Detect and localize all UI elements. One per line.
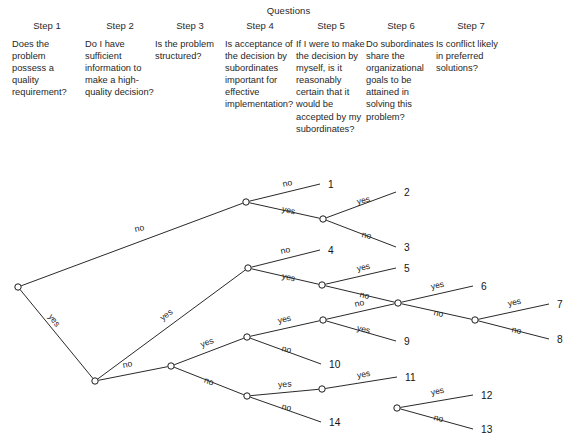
tree-edge-yes-n1-n2 (20, 290, 93, 379)
outcome-label-4: 4 (328, 245, 334, 256)
tree-node-n10[interactable] (320, 317, 326, 323)
tree-node-n7[interactable] (319, 282, 325, 288)
edge-label-yes: yes (278, 378, 292, 389)
edge-label-yes: yes (277, 313, 292, 326)
outcome-label-12: 12 (481, 390, 493, 401)
tree-edge-yes-n14-out12b (400, 395, 473, 407)
edge-label-yes: yes (158, 307, 175, 323)
tree-edge-no-n5-out3 (326, 220, 396, 247)
edge-label-yes: yes (356, 368, 371, 380)
edge-label-no: no (282, 177, 294, 189)
tree-edges (20, 184, 549, 429)
edge-label-yes: yes (46, 312, 62, 329)
node-circle-icon (320, 317, 326, 323)
outcome-label-3: 3 (404, 242, 410, 253)
edge-label-yes: yes (199, 335, 215, 349)
tree-node-n8[interactable] (395, 300, 401, 306)
tree-node-n3[interactable] (168, 363, 174, 369)
node-circle-icon (92, 378, 98, 384)
node-circle-icon (320, 216, 326, 222)
tree-edge-no-n1-n4 (21, 203, 243, 286)
outcome-label-6: 6 (481, 281, 487, 292)
edge-label-yes: yes (356, 323, 371, 336)
tree-edge-yes-n12-n13 (250, 389, 318, 395)
tree-node-n11[interactable] (244, 334, 250, 340)
outcome-label-9: 9 (404, 336, 410, 347)
outcome-label-14: 14 (329, 417, 341, 428)
node-circle-icon (395, 300, 401, 306)
edge-label-no: no (433, 412, 445, 424)
edge-label-yes: yes (356, 261, 371, 274)
outcome-label-2: 2 (404, 187, 410, 198)
edge-label-yes: yes (281, 271, 296, 284)
edge-label-no: no (511, 324, 523, 336)
tree-node-n13[interactable] (319, 386, 325, 392)
outcome-label-8: 8 (557, 334, 563, 345)
tree-node-n6[interactable] (245, 265, 251, 271)
decision-tree-graph: noyesyesnonoyesyesnonoyesyesnoyesnoyesno… (0, 0, 577, 441)
outcome-label-7: 7 (557, 299, 563, 310)
node-circle-icon (243, 199, 249, 205)
tree-edge-labels: noyesyesnonoyesyesnonoyesyesnoyesnoyesno… (46, 177, 522, 424)
tree-node-n4[interactable] (243, 199, 249, 205)
node-circle-icon (319, 386, 325, 392)
edge-label-no: no (134, 222, 146, 234)
edge-label-no: no (280, 244, 292, 256)
node-circle-icon (15, 284, 21, 290)
node-circle-icon (245, 265, 251, 271)
outcome-label-1: 1 (328, 179, 334, 190)
outcome-label-11: 11 (405, 372, 416, 383)
outcome-label-10: 10 (329, 359, 341, 370)
tree-node-n2[interactable] (92, 378, 98, 384)
tree-edge-no-n2-n3 (98, 367, 167, 381)
edge-label-no: no (122, 358, 134, 370)
node-circle-icon (244, 334, 250, 340)
tree-node-n9[interactable] (472, 317, 478, 323)
outcome-label-5: 5 (404, 263, 410, 274)
node-circle-icon (472, 317, 478, 323)
edge-label-yes: yes (356, 194, 371, 207)
edge-label-yes: yes (281, 204, 296, 217)
node-circle-icon (168, 363, 174, 369)
outcome-label-13: 13 (481, 424, 493, 435)
edge-label-yes: yes (430, 279, 445, 292)
edge-label-no: no (433, 307, 445, 319)
edge-label-yes: yes (430, 385, 445, 398)
node-circle-icon (319, 282, 325, 288)
tree-node-n5[interactable] (320, 216, 326, 222)
node-circle-icon (394, 405, 400, 411)
tree-node-n1[interactable] (15, 284, 21, 290)
decision-tree-figure: Questions Step 1 Does the problem posses… (0, 0, 577, 441)
edge-label-no: no (203, 375, 216, 388)
node-circle-icon (244, 393, 250, 399)
edge-label-no: no (361, 229, 373, 241)
edge-label-yes: yes (507, 296, 522, 309)
tree-node-n12[interactable] (244, 393, 250, 399)
tree-node-n14[interactable] (394, 405, 400, 411)
